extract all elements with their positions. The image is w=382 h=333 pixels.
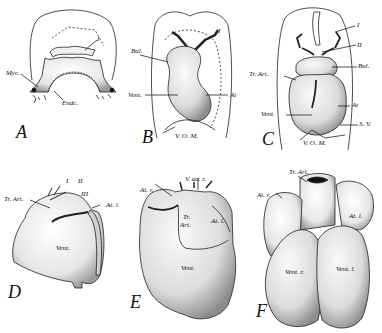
panel-letter-a: A <box>16 123 27 141</box>
label-at: At <box>230 92 236 99</box>
panel-letter-b: B <box>142 128 153 146</box>
label-sv: S. V. <box>359 121 371 128</box>
label-art: Art. <box>180 222 191 229</box>
panel-letter-f: F <box>256 302 267 320</box>
label-tr: Tr. <box>183 214 190 221</box>
figure-drawings <box>0 0 382 333</box>
panel-f-drawing <box>264 174 374 329</box>
label-myc: Myc. <box>6 70 20 77</box>
panel-c-drawing <box>277 8 358 150</box>
heart-development-figure: Myc. Endc. I A Bul. Vent. At V. O. M. I … <box>0 0 382 333</box>
label-vom: V. O. M. <box>303 140 326 147</box>
panel-e-drawing <box>140 178 236 319</box>
label-tr-art: Tr. Art. <box>4 196 24 203</box>
panel-letter-c: C <box>262 130 274 148</box>
label-arch-ii: II <box>357 42 362 49</box>
label-arch-iii: III <box>81 191 88 198</box>
label-at-l: At. l. <box>349 213 362 220</box>
label-v-ao-r: V. ao. r. <box>185 176 206 183</box>
label-at: At <box>352 102 358 109</box>
panel-a-drawing <box>21 10 116 103</box>
panel-letter-d: D <box>8 283 21 301</box>
label-tr-art: Tr. Art. <box>289 169 309 176</box>
label-tr-art: Tr. Art. <box>249 71 269 78</box>
label-at-l: At. l. <box>106 202 119 209</box>
panel-letter-e: E <box>130 293 141 311</box>
label-at-r: At. r. <box>140 187 153 194</box>
label-arch-ii: II <box>78 178 83 185</box>
label-arch-i: I <box>357 22 359 29</box>
label-arch-i: I <box>66 178 68 185</box>
label-vent-l: Vent. l. <box>336 266 355 273</box>
label-vent: Vent. <box>261 111 275 118</box>
label-bul: Bul. <box>358 63 369 70</box>
label-vent: Vent. <box>56 245 70 252</box>
panel-d-drawing <box>13 186 104 288</box>
label-arch-i: I <box>218 28 220 35</box>
label-endc: Endc. <box>62 100 78 107</box>
label-vent: Vent. <box>181 265 195 272</box>
label-at-l: At. l. <box>211 218 224 225</box>
label-vom: V. O. M. <box>175 133 198 140</box>
label-vent: Vent. <box>128 92 142 99</box>
label-vent-r: Vent. r. <box>285 269 304 276</box>
label-bul: Bul. <box>131 48 142 55</box>
label-at-r: At. r. <box>257 192 270 199</box>
label-arch-i: I <box>97 36 99 43</box>
